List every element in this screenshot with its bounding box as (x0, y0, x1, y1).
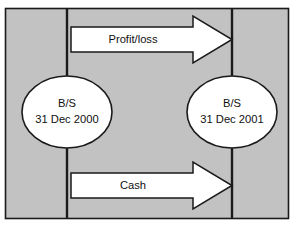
diagram-root: Profit/loss Cash B/S 31 Dec 2000 B/S 31 … (0, 0, 298, 231)
balance-sheet-closing-line1: B/S (223, 97, 241, 109)
diagram-canvas: Profit/loss Cash B/S 31 Dec 2000 B/S 31 … (0, 0, 298, 231)
balance-sheet-closing-line2: 31 Dec 2001 (200, 113, 263, 125)
arrow-cash-label: Cash (120, 179, 146, 191)
balance-sheet-opening-line1: B/S (58, 97, 76, 109)
arrow-profit-loss-label: Profit/loss (108, 33, 158, 45)
balance-sheet-opening-line2: 31 Dec 2000 (35, 113, 98, 125)
